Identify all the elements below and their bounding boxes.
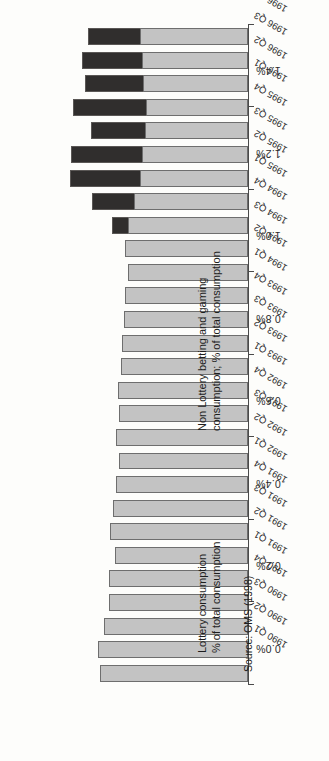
bar-column bbox=[8, 96, 248, 120]
value-axis-tick bbox=[248, 272, 254, 273]
bar-segment-non-lottery bbox=[128, 264, 248, 281]
bar-column bbox=[8, 661, 248, 685]
bar-segment-non-lottery bbox=[100, 665, 249, 682]
bar-segment-non-lottery bbox=[122, 335, 248, 352]
bar-segment-non-lottery bbox=[115, 547, 249, 564]
bar-segment-lottery bbox=[73, 99, 147, 116]
value-axis-tick bbox=[248, 107, 254, 108]
bar-column bbox=[8, 143, 248, 167]
bar-stack bbox=[128, 264, 248, 281]
bar-column bbox=[8, 496, 248, 520]
value-axis-tick bbox=[248, 354, 254, 355]
figure-canvas: Lottery consumption % of total consumpti… bbox=[0, 0, 329, 761]
bar-stack bbox=[116, 476, 248, 493]
bar-stack bbox=[118, 382, 249, 399]
bar-segment-non-lottery bbox=[140, 170, 248, 187]
rotated-figure-group: Lottery consumption % of total consumpti… bbox=[0, 0, 329, 761]
bar-segment-non-lottery bbox=[124, 311, 249, 328]
bar-column bbox=[8, 213, 248, 237]
bar-segment-lottery bbox=[92, 193, 134, 210]
bar-segment-lottery bbox=[82, 52, 142, 69]
bar-column bbox=[8, 520, 248, 544]
annotation-lottery-series: Lottery consumption % of total consumpti… bbox=[196, 542, 224, 653]
source-note: Source: OMS (1998) bbox=[242, 576, 254, 672]
bar-segment-non-lottery bbox=[118, 382, 249, 399]
bar-segment-non-lottery bbox=[143, 75, 248, 92]
bar-column bbox=[8, 25, 248, 49]
bar-segment-non-lottery bbox=[142, 52, 249, 69]
bar-segment-lottery bbox=[71, 146, 142, 163]
annotation-nonlottery-line2: consumption; % of total consumption bbox=[210, 251, 224, 431]
bar-stack bbox=[92, 193, 248, 210]
bar-column bbox=[8, 166, 248, 190]
bar-segment-lottery bbox=[85, 75, 144, 92]
bar-stack bbox=[110, 523, 248, 540]
bar-stack bbox=[112, 217, 249, 234]
bar-stack bbox=[100, 665, 249, 682]
bar-segment-non-lottery bbox=[116, 476, 248, 493]
value-axis-tick bbox=[248, 519, 254, 520]
bar-segment-lottery bbox=[88, 28, 141, 45]
bar-segment-non-lottery bbox=[119, 453, 248, 470]
bar-column bbox=[8, 119, 248, 143]
bar-segment-non-lottery bbox=[146, 99, 248, 116]
bar-stack bbox=[91, 122, 249, 139]
bar-stack bbox=[122, 335, 248, 352]
bar-stack bbox=[85, 75, 249, 92]
bar-stack bbox=[82, 52, 249, 69]
bar-segment-non-lottery bbox=[125, 287, 248, 304]
bar-stack bbox=[116, 429, 248, 446]
bar-stack bbox=[104, 618, 248, 635]
value-axis-tick bbox=[248, 24, 254, 25]
bar-segment-non-lottery bbox=[113, 500, 248, 517]
bar-segment-non-lottery bbox=[121, 358, 249, 375]
bar-column bbox=[8, 72, 248, 96]
annotation-nonlottery-line1: Non Lottery betting and gaming bbox=[196, 251, 210, 431]
bar-stack bbox=[125, 287, 248, 304]
bar-stack bbox=[119, 405, 248, 422]
bar-stack bbox=[88, 28, 249, 45]
bar-segment-non-lottery bbox=[119, 405, 248, 422]
bar-stack bbox=[98, 641, 248, 658]
bar-stack bbox=[124, 311, 249, 328]
bar-stack bbox=[115, 547, 249, 564]
bar-stack bbox=[119, 453, 248, 470]
bar-segment-lottery bbox=[91, 122, 145, 139]
annotation-lottery-line1: Lottery consumption bbox=[196, 542, 210, 653]
bar-stack bbox=[109, 594, 249, 611]
bar-segment-lottery bbox=[112, 217, 129, 234]
bar-segment-non-lottery bbox=[110, 523, 248, 540]
bar-stack bbox=[121, 358, 249, 375]
bar-segment-non-lottery bbox=[145, 122, 249, 139]
bar-stack bbox=[109, 570, 249, 587]
bar-segment-non-lottery bbox=[109, 570, 249, 587]
bar-stack bbox=[113, 500, 248, 517]
bar-segment-non-lottery bbox=[98, 641, 248, 658]
bar-column bbox=[8, 48, 248, 72]
bar-stack bbox=[71, 146, 248, 163]
bar-stack bbox=[125, 240, 248, 257]
value-axis-tick bbox=[248, 684, 254, 685]
bar-column bbox=[8, 449, 248, 473]
bar-stack bbox=[73, 99, 249, 116]
bar-column bbox=[8, 473, 248, 497]
bar-segment-non-lottery bbox=[125, 240, 248, 257]
bar-segment-non-lottery bbox=[109, 594, 249, 611]
bar-segment-non-lottery bbox=[140, 28, 248, 45]
annotation-nonlottery-series: Non Lottery betting and gaming consumpti… bbox=[196, 251, 224, 431]
bar-column bbox=[8, 190, 248, 214]
bar-stack bbox=[70, 170, 249, 187]
bar-segment-non-lottery bbox=[128, 217, 248, 234]
bar-segment-non-lottery bbox=[142, 146, 249, 163]
bar-segment-non-lottery bbox=[116, 429, 248, 446]
bar-segment-non-lottery bbox=[134, 193, 248, 210]
bar-segment-lottery bbox=[70, 170, 141, 187]
annotation-lottery-line2: % of total consumption bbox=[210, 542, 224, 653]
value-axis-tick bbox=[248, 189, 254, 190]
bar-segment-non-lottery bbox=[104, 618, 248, 635]
value-axis-tick bbox=[248, 437, 254, 438]
